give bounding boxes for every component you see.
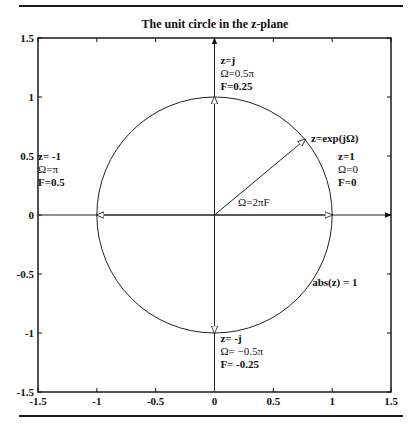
y-tick-labels: 1.510.50-0.5-1-1.5 <box>17 32 35 398</box>
annotation-zmj: Ω= −0.5π <box>220 345 263 357</box>
annotation-z1: z=1 <box>338 150 355 162</box>
annotation-zmj: F= -0.25 <box>220 358 259 370</box>
chart-title: The unit circle in the z-plane <box>142 17 289 31</box>
y-tick-label: 0 <box>29 209 35 221</box>
annotations-group: z=jΩ=0.5πF=0.25z=1Ω=0F=0z= -1Ω=πF=0.5z= … <box>38 54 359 370</box>
y-tick-label: 0.5 <box>20 150 34 162</box>
y-tick-label: 1.5 <box>20 32 34 44</box>
annotation-zj: z=j <box>220 54 235 66</box>
annotation-z1: F=0 <box>338 176 357 188</box>
annotation-omega: Ω=2πF <box>238 196 270 208</box>
x-tick-label: -0.5 <box>147 395 165 407</box>
x-tick-label: -1 <box>92 395 101 407</box>
annotation-zj: Ω=0.5π <box>220 67 254 79</box>
y-tick-label: -0.5 <box>17 268 35 280</box>
x-tick-labels: -1.5-1-0.500.511.5 <box>29 395 398 407</box>
y-tick-label: -1.5 <box>17 386 35 398</box>
annotation-zm1: Ω=π <box>38 163 58 175</box>
y-tick-label: 1 <box>29 91 35 103</box>
annotation-abs: abs(z) = 1 <box>312 276 357 289</box>
series-group <box>38 38 391 392</box>
annotation-zexp: z=exp(jΩ) <box>311 132 359 145</box>
annotation-zm1: z= -1 <box>38 150 61 162</box>
x-tick-label: 1 <box>329 395 335 407</box>
x-tick-label: 0 <box>212 395 218 407</box>
annotation-zj: F=0.25 <box>220 80 253 92</box>
x-tick-label: 0.5 <box>266 395 280 407</box>
annotation-zmj: z= -j <box>220 332 241 344</box>
y-tick-label: -1 <box>25 327 34 339</box>
unit-circle-chart: The unit circle in the z-plane -1.5-1-0.… <box>0 0 418 430</box>
annotation-zm1: F=0.5 <box>38 176 65 188</box>
annotation-z1: Ω=0 <box>338 163 358 175</box>
x-tick-label: 1.5 <box>384 395 398 407</box>
